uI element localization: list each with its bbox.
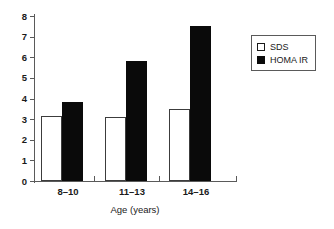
y-tick-label-5: 5 bbox=[5, 73, 27, 83]
bar-homa-ir-8-10 bbox=[62, 102, 83, 181]
x-axis-title: Age (years) bbox=[35, 204, 235, 215]
x-axis-label-11-13: 11–13 bbox=[102, 186, 162, 197]
bar-homa-ir-14-16 bbox=[190, 26, 211, 181]
x-axis-line bbox=[34, 181, 237, 182]
bar-homa-ir-11-13 bbox=[126, 61, 147, 181]
legend-label-homa-ir: HOMA IR bbox=[270, 55, 308, 65]
y-tick-label-2: 2 bbox=[5, 135, 27, 145]
legend-swatch-homa-ir-icon bbox=[257, 56, 265, 64]
legend-item-sds: SDS bbox=[257, 40, 308, 53]
x-axis-endcap bbox=[236, 176, 237, 182]
bar-sds-8-10 bbox=[41, 116, 62, 181]
plot-area bbox=[35, 16, 235, 181]
x-axis-label-8-10: 8–10 bbox=[38, 186, 98, 197]
y-tick-label-0: 0 bbox=[5, 177, 27, 187]
y-tick-label-3: 3 bbox=[5, 115, 27, 125]
bar-sds-14-16 bbox=[169, 109, 190, 181]
y-tick-label-4: 4 bbox=[5, 94, 27, 104]
legend-swatch-sds-icon bbox=[257, 43, 265, 51]
y-tick-label-1: 1 bbox=[5, 156, 27, 166]
y-tick-label-7: 7 bbox=[5, 32, 27, 42]
bar-chart-figure: 0 1 2 3 4 5 6 7 8 8–10 11–13 14–16 Age (… bbox=[0, 0, 334, 229]
bar-sds-11-13 bbox=[105, 117, 126, 181]
y-tick-label-6: 6 bbox=[5, 53, 27, 63]
legend-item-homa-ir: HOMA IR bbox=[257, 53, 308, 66]
legend: SDS HOMA IR bbox=[251, 35, 316, 71]
y-tick-label-8: 8 bbox=[5, 12, 27, 22]
legend-label-sds: SDS bbox=[270, 42, 289, 52]
x-axis-label-14-16: 14–16 bbox=[166, 186, 226, 197]
